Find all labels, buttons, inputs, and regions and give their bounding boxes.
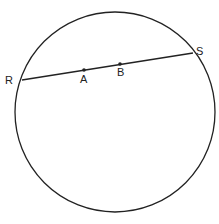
label-s: S bbox=[196, 45, 203, 57]
label-r: R bbox=[5, 74, 13, 86]
label-a: A bbox=[80, 73, 88, 85]
chord-rs bbox=[22, 53, 193, 80]
point-a-dot bbox=[82, 68, 86, 72]
circle bbox=[15, 12, 215, 212]
diagram-canvas: R S A B bbox=[0, 0, 219, 224]
label-b: B bbox=[117, 66, 124, 78]
